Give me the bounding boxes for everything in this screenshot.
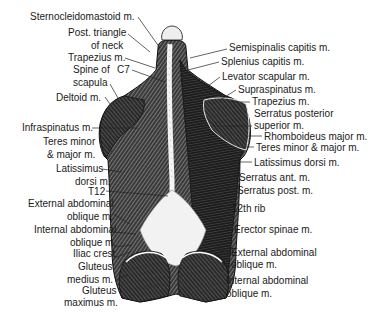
- label-gluteus-maximus-line2: maximus m.: [64, 297, 118, 309]
- label-latissimus-right: Latissimus dorsi m.: [254, 157, 340, 169]
- label-supraspinatus: Supraspinatus m.: [238, 84, 316, 96]
- label-sternocleidomastoid: Sternocleidomastoid m.: [30, 11, 135, 23]
- label-teres-right: Teres minor & major m.: [256, 142, 359, 154]
- label-12th-rib: 12th rib: [232, 203, 265, 215]
- label-splenius: Splenius capitis m.: [221, 56, 304, 68]
- label-int-oblique-right-line2: oblique m.: [226, 288, 272, 300]
- label-trapezius-right: Trapezius m.: [252, 96, 309, 108]
- label-t12: T12: [88, 186, 105, 198]
- label-post-triangle-line2: of neck: [91, 40, 123, 52]
- label-spine-of-scapula-line2: scapula: [73, 77, 107, 89]
- label-infraspinatus: Infraspinatus m.: [22, 122, 93, 134]
- label-levator: Levator scapular m.: [222, 71, 310, 83]
- label-int-oblique-right: Internal abdominal: [226, 275, 308, 287]
- gluteal-region: [119, 251, 170, 302]
- label-serratus-post: Serratus post. m.: [237, 185, 313, 197]
- label-semispinalis: Semispinalis capitis m.: [229, 42, 330, 54]
- label-trapezius-left: Trapezius m.: [68, 52, 125, 64]
- label-ext-oblique-left: External abdominal: [28, 198, 114, 210]
- label-teres-left-line2: & major m.: [47, 149, 95, 161]
- label-ext-oblique-left-line2: oblique m.: [67, 211, 113, 223]
- label-erector-spinae: Erector spinae m.: [234, 224, 312, 236]
- label-latissimus-left: Latissimus: [56, 163, 103, 175]
- label-iliac-crest: Iliac crest: [73, 248, 115, 260]
- neck: [162, 26, 183, 40]
- label-gluteus-medius: Gluteus: [78, 261, 112, 273]
- label-spine-of-scapula: Spine of: [73, 64, 110, 76]
- label-deltoid: Deltoid m.: [56, 92, 101, 104]
- label-ext-oblique-right-line2: oblique m.: [231, 259, 277, 271]
- label-post-triangle: Post. triangle: [68, 27, 126, 39]
- anatomy-figure: Gilbert Sternocleidomastoid m. Post. tri…: [0, 0, 381, 314]
- label-teres-left: Teres minor: [43, 136, 95, 148]
- label-gluteus-maximus: Gluteus: [82, 285, 116, 297]
- label-serratus-post-sup: Serratus posterior: [254, 108, 333, 120]
- label-c7: C7: [117, 64, 130, 76]
- label-serratus-ant: Serratus ant. m.: [239, 172, 310, 184]
- label-ext-oblique-right: External abdominal: [231, 247, 317, 259]
- label-int-oblique-left: Internal abdominal: [34, 224, 116, 236]
